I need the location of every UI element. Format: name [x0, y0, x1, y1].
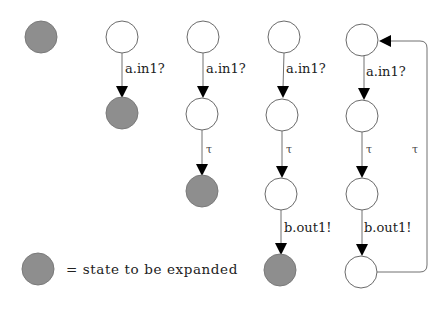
column-4: a.in1? τ b.out1! τ — [345, 24, 427, 288]
arrowhead-icon — [379, 35, 391, 47]
state-expanded — [187, 21, 219, 53]
arrowhead-icon — [358, 88, 370, 100]
transition-label: a.in1? — [125, 61, 165, 76]
arrowhead-icon — [197, 86, 209, 98]
legend: = state to be expanded — [22, 253, 238, 285]
arrowhead-icon — [275, 243, 287, 255]
state-expanded — [345, 256, 377, 288]
state-expanded — [346, 100, 378, 132]
state-expanded — [265, 178, 297, 210]
state-unexpanded — [106, 97, 138, 129]
state-expanded — [266, 99, 298, 131]
arrowhead-icon — [196, 164, 208, 176]
transition-label: a.in1? — [206, 61, 246, 76]
column-2: a.in1? τ — [186, 21, 246, 207]
state-unexpanded — [264, 254, 296, 286]
column-3: a.in1? τ b.out1! — [264, 21, 331, 286]
state-expanded — [106, 21, 138, 53]
transition-label: a.in1? — [286, 61, 326, 76]
transition-label: b.out1! — [284, 220, 331, 235]
transition-edge — [283, 53, 284, 88]
state-unexpanded — [186, 175, 218, 207]
transition-label: τ — [366, 143, 372, 156]
state-expansion-diagram: a.in1? a.in1? τ a.in1? τ b.out1! a.in1? — [0, 0, 447, 309]
arrowhead-icon — [356, 166, 368, 178]
transition-label: b.out1! — [364, 220, 411, 235]
arrowhead-icon — [276, 166, 288, 178]
state-expanded — [346, 24, 378, 56]
state-expanded — [268, 21, 300, 53]
arrowhead-icon — [116, 86, 128, 98]
legend-text: = state to be expanded — [66, 261, 238, 277]
column-1: a.in1? — [106, 21, 165, 129]
arrowhead-icon — [277, 86, 289, 98]
legend-swatch — [22, 253, 54, 285]
state-expanded — [346, 178, 378, 210]
state-unexpanded — [25, 21, 57, 53]
transition-label: a.in1? — [366, 64, 406, 79]
column-0 — [25, 21, 57, 53]
transition-label: τ — [286, 143, 292, 156]
transition-label: τ — [412, 143, 418, 156]
state-expanded — [186, 98, 218, 130]
transition-label: τ — [206, 143, 212, 156]
arrowhead-icon — [356, 244, 368, 256]
